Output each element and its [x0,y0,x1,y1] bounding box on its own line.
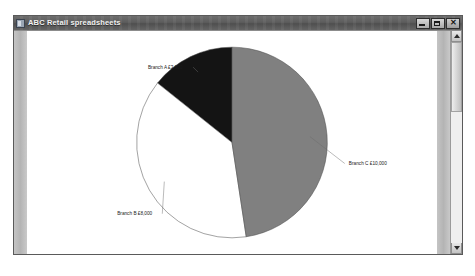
chevron-down-icon [454,246,460,250]
close-icon: ✕ [447,19,459,28]
scroll-up-button[interactable] [451,31,462,42]
page-margin-left [14,31,28,254]
page-margin-right [436,31,450,254]
pie-label-branch-b: Branch B £8,000 [117,211,152,216]
maximize-button[interactable] [431,18,445,29]
chart-canvas: Branch A £3,000Branch B £8,000Branch C £… [28,31,436,254]
pie-slice-branch-c[interactable] [232,47,327,237]
scrollbar-thumb[interactable] [451,42,462,112]
minimize-icon [419,24,425,26]
window-title: ABC Retail spreadsheets [28,16,121,30]
chevron-up-icon [454,34,460,38]
spreadsheet-icon [16,19,25,28]
scrollbar-track[interactable] [451,42,462,243]
vertical-scrollbar[interactable] [450,31,462,254]
window-controls: ✕ [416,18,461,29]
window-title-bar[interactable]: ABC Retail spreadsheets ✕ [14,16,462,30]
pie-label-branch-c: Branch C £10,000 [349,161,387,166]
pie-slices [137,47,328,238]
scroll-down-button[interactable] [451,243,462,254]
document-view: Branch A £3,000Branch B £8,000Branch C £… [14,31,450,254]
minimize-button[interactable] [416,18,430,29]
close-button[interactable]: ✕ [446,18,460,29]
application-window: ABC Retail spreadsheets ✕ Branch A £3,00… [13,15,463,255]
maximize-icon [434,21,440,26]
window-client-area: Branch A £3,000Branch B £8,000Branch C £… [14,30,462,254]
pie-label-branch-a: Branch A £3,000 [148,65,183,70]
pie-chart: Branch A £3,000Branch B £8,000Branch C £… [28,31,436,254]
